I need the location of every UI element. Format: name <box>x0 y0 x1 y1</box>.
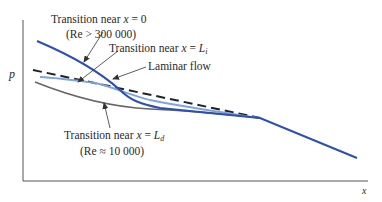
annotation-transition-Ld-note: (Re ≈ 10 000) <box>80 145 144 158</box>
annotation-transition-Li: Transition near x = Li <box>109 42 207 58</box>
pressure-vs-distance-diagram <box>0 0 382 202</box>
annotation-laminar-flow: Laminar flow <box>148 60 211 73</box>
arrow-laminar <box>113 67 146 79</box>
annotation-transition-x0: Transition near x = 0 <box>51 13 147 26</box>
annotation-transition-x0-note: (Re > 300 000) <box>66 28 136 41</box>
arrow-transition-Ld <box>104 103 110 128</box>
annotation-transition-Ld: Transition near x = Ld <box>64 129 164 145</box>
x-axis-label: x <box>362 184 366 197</box>
y-axis-label: p <box>9 68 15 81</box>
